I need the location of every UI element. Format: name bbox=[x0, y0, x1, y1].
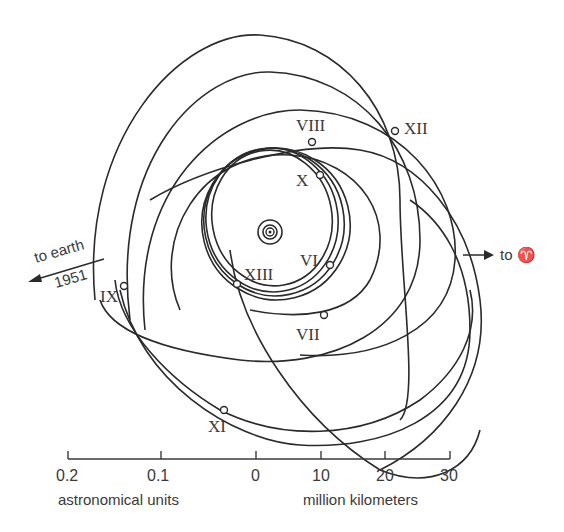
svg-text:XIII: XIII bbox=[244, 265, 274, 284]
marker-xiii bbox=[234, 281, 241, 288]
marker-vi bbox=[327, 262, 334, 269]
svg-text:XI: XI bbox=[208, 417, 226, 436]
marker-x bbox=[317, 172, 324, 179]
svg-text:XII: XII bbox=[404, 119, 428, 138]
svg-text:20: 20 bbox=[376, 467, 394, 484]
svg-text:0: 0 bbox=[251, 467, 260, 484]
svg-text:VI: VI bbox=[300, 251, 318, 270]
svg-text:VII: VII bbox=[296, 325, 320, 344]
svg-text:0.1: 0.1 bbox=[147, 467, 169, 484]
outer-orbits bbox=[93, 35, 481, 478]
aries-direction: to ♈ bbox=[463, 246, 536, 264]
svg-text:astronomical units: astronomical units bbox=[58, 491, 179, 508]
orbit-diagram: VIII XII X VI XIII VII IX XI to earth 19… bbox=[0, 0, 564, 532]
marker-vii bbox=[321, 312, 328, 319]
svg-text:million kilometers: million kilometers bbox=[303, 491, 418, 508]
svg-text:VIII: VIII bbox=[296, 116, 326, 135]
svg-text:10: 10 bbox=[312, 467, 330, 484]
svg-text:X: X bbox=[296, 171, 308, 190]
svg-text:to ♈: to ♈ bbox=[500, 246, 536, 264]
marker-xi bbox=[221, 407, 228, 414]
marker-ix bbox=[121, 283, 128, 290]
scale-bar: 0.2 0.1 0 10 20 30 astronomical units mi… bbox=[56, 451, 458, 508]
inner-orbits bbox=[171, 132, 380, 315]
svg-text:1951: 1951 bbox=[52, 265, 89, 291]
jupiter-symbol bbox=[258, 220, 282, 244]
marker-xii bbox=[392, 128, 399, 135]
svg-text:IX: IX bbox=[100, 287, 118, 306]
svg-text:to earth: to earth bbox=[32, 236, 86, 266]
earth-direction: to earth 1951 bbox=[28, 236, 104, 291]
svg-text:30: 30 bbox=[440, 467, 458, 484]
marker-viii bbox=[309, 139, 316, 146]
svg-text:0.2: 0.2 bbox=[56, 467, 78, 484]
